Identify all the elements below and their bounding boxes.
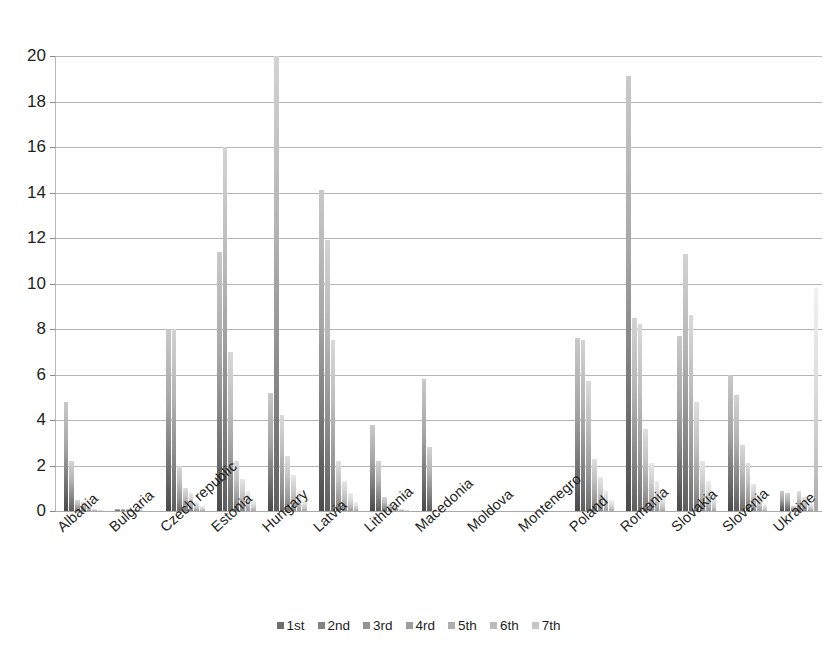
legend-swatch: [448, 622, 455, 629]
y-tick-mark: [50, 193, 55, 194]
bar-group: [524, 56, 564, 511]
bar: [331, 340, 336, 511]
bar: [166, 329, 171, 511]
bar: [626, 76, 631, 511]
y-tick-mark: [50, 511, 55, 512]
legend-swatch: [318, 622, 325, 629]
y-tick-label: 0: [12, 502, 46, 519]
y-tick-label: 2: [12, 457, 46, 474]
bar-group: [370, 56, 410, 511]
bar-group: [217, 56, 257, 511]
bar: [683, 254, 688, 511]
y-tick-label: 8: [12, 320, 46, 337]
legend-item[interactable]: 6th: [490, 619, 519, 633]
bar: [280, 415, 285, 511]
bar: [763, 504, 768, 511]
legend-swatch: [363, 622, 370, 629]
legend-swatch: [277, 622, 284, 629]
bar: [69, 461, 74, 511]
bar: [734, 395, 739, 511]
y-tick-mark: [50, 147, 55, 148]
bar: [354, 502, 359, 511]
bar: [405, 510, 410, 511]
legend-item[interactable]: 1st: [277, 619, 305, 633]
bar-group: [166, 56, 206, 511]
legend-swatch: [532, 622, 539, 629]
bar: [268, 393, 273, 511]
bar: [677, 336, 682, 511]
bar: [609, 500, 614, 511]
plot-area: [55, 56, 822, 511]
legend-label: 2nd: [328, 619, 351, 633]
bar-chart: 02468101214161820 AlbaniaBulgariaCzech r…: [0, 0, 837, 664]
bar: [780, 491, 785, 511]
y-tick-label: 12: [12, 229, 46, 246]
legend-item[interactable]: 4rd: [406, 619, 436, 633]
bar-group: [64, 56, 104, 511]
y-tick-mark: [50, 56, 55, 57]
bar: [319, 190, 324, 511]
bar-group: [422, 56, 462, 511]
bar-group: [268, 56, 308, 511]
y-tick-label: 14: [12, 184, 46, 201]
chart-legend: 1st2nd3rd4rd5th6th7th: [0, 619, 837, 633]
y-tick-label: 16: [12, 138, 46, 155]
bar: [98, 510, 103, 511]
y-tick-mark: [50, 375, 55, 376]
bar: [376, 461, 381, 511]
bar: [586, 381, 591, 511]
bar: [64, 402, 69, 511]
y-tick-label: 18: [12, 93, 46, 110]
y-tick-mark: [50, 466, 55, 467]
bar: [689, 315, 694, 511]
legend-label: 1st: [287, 619, 305, 633]
y-tick-mark: [50, 102, 55, 103]
legend-item[interactable]: 3rd: [363, 619, 393, 633]
y-tick-mark: [50, 329, 55, 330]
bar: [370, 425, 375, 511]
legend-item[interactable]: 2nd: [318, 619, 351, 633]
legend-label: 6th: [500, 619, 519, 633]
y-tick-mark: [50, 420, 55, 421]
bar: [632, 318, 637, 511]
bar-group: [473, 56, 513, 511]
y-tick-mark: [50, 284, 55, 285]
bar: [814, 288, 819, 511]
legend-label: 4rd: [416, 619, 436, 633]
legend-item[interactable]: 5th: [448, 619, 477, 633]
y-tick-label: 20: [12, 47, 46, 64]
bar: [638, 324, 643, 511]
bar-group: [319, 56, 359, 511]
bar: [728, 375, 733, 512]
legend-label: 3rd: [373, 619, 393, 633]
legend-item[interactable]: 7th: [532, 619, 561, 633]
bar: [228, 352, 233, 511]
y-tick-label: 4: [12, 411, 46, 428]
bar-group: [575, 56, 615, 511]
legend-swatch: [406, 622, 413, 629]
bar: [200, 506, 205, 511]
legend-label: 7th: [542, 619, 561, 633]
y-tick-label: 6: [12, 366, 46, 383]
bar: [172, 329, 177, 511]
bar-group: [115, 56, 155, 511]
y-tick-mark: [50, 238, 55, 239]
bar: [325, 240, 330, 511]
bar-group: [677, 56, 717, 511]
bar: [274, 56, 279, 511]
bar-group: [626, 56, 666, 511]
legend-label: 5th: [458, 619, 477, 633]
bar-group: [728, 56, 768, 511]
y-tick-label: 10: [12, 275, 46, 292]
bar-group: [780, 56, 820, 511]
bar: [581, 340, 586, 511]
legend-swatch: [490, 622, 497, 629]
bar: [223, 147, 228, 511]
y-axis-labels: 02468101214161820: [0, 0, 46, 664]
bar: [427, 447, 432, 511]
bar: [422, 379, 427, 511]
